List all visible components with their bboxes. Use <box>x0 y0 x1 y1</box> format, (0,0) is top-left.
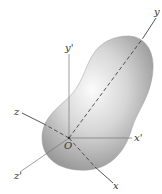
x-axis-outside <box>95 167 113 183</box>
origin-point <box>68 137 70 139</box>
z-label: z <box>14 107 19 117</box>
y-axis-outside <box>143 18 156 38</box>
y-label: y <box>154 7 160 17</box>
x-label: x <box>113 181 119 191</box>
rigid-body-shape <box>42 36 153 170</box>
y-prime-label: y' <box>65 43 73 53</box>
x-prime-label: x' <box>134 133 142 143</box>
z-axis-outside <box>22 113 44 124</box>
origin-label: O <box>64 141 72 151</box>
diagram-canvas <box>0 0 162 194</box>
z-prime-label: z' <box>14 171 22 181</box>
